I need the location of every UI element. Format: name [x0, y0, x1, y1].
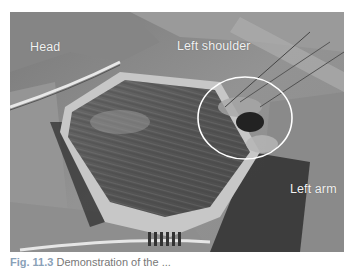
label-left-shoulder: Left shoulder [177, 39, 251, 53]
label-head: Head [30, 40, 60, 54]
label-left-arm: Left arm [290, 182, 337, 196]
figure-number: Fig. 11.3 [10, 256, 53, 268]
surgical-photo-figure: Head Left shoulder Left arm [10, 12, 344, 252]
figure-caption: Fig. 11.3 Demonstration of the ... [10, 256, 171, 268]
caption-text: Demonstration of the ... [56, 256, 170, 268]
